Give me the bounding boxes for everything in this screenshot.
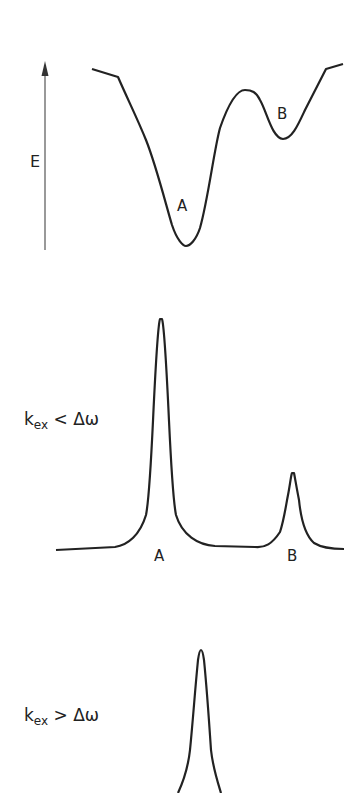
peak-b-label: B (287, 549, 297, 564)
diagram-canvas (0, 0, 351, 793)
energy-landscape-curve (92, 64, 343, 246)
fast-exchange-spectrum (178, 650, 221, 793)
arrow-up-icon (42, 61, 49, 76)
peak-a-label: A (154, 549, 164, 564)
energy-axis-label: E (30, 154, 40, 170)
slow-exchange-spectrum (56, 319, 344, 550)
slow-exchange-condition: kex < Δω (24, 411, 99, 431)
well-a-label: A (177, 199, 187, 214)
well-b-label: B (277, 107, 287, 122)
fast-exchange-condition: kex > Δω (24, 707, 99, 727)
